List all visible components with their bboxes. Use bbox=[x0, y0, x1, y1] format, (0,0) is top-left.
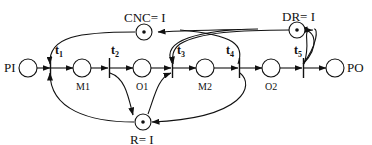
label-o1: O1 bbox=[136, 82, 148, 92]
arc-r-t1 bbox=[50, 73, 134, 122]
label-t5: t5 bbox=[294, 44, 302, 59]
place-m2 bbox=[196, 59, 214, 77]
label-r: R= I bbox=[130, 133, 154, 145]
place-o1 bbox=[133, 59, 151, 77]
arc-t2-r bbox=[110, 73, 133, 115]
label-t3: t3 bbox=[177, 44, 185, 59]
t3-sub: 3 bbox=[181, 50, 185, 59]
petri-net-graphics bbox=[0, 0, 372, 145]
t1-sub: 1 bbox=[59, 50, 63, 59]
place-o2 bbox=[262, 59, 280, 77]
label-t2: t2 bbox=[111, 44, 119, 59]
token-dr bbox=[295, 28, 299, 32]
token-cnc bbox=[142, 30, 146, 34]
label-t4: t4 bbox=[226, 44, 234, 59]
t4-sub: 4 bbox=[230, 50, 234, 59]
place-po bbox=[326, 59, 344, 77]
t2-sub: 2 bbox=[115, 50, 119, 59]
token-r bbox=[141, 120, 145, 124]
label-pi: PI bbox=[4, 61, 16, 74]
label-t1: t1 bbox=[55, 44, 63, 59]
place-pi bbox=[19, 59, 37, 77]
label-m2: M2 bbox=[198, 82, 212, 92]
label-o2: O2 bbox=[265, 82, 277, 92]
label-m1: M1 bbox=[76, 82, 90, 92]
label-po: PO bbox=[347, 61, 364, 74]
label-cnc: CNC= I bbox=[124, 11, 166, 24]
t5-sub: 5 bbox=[298, 50, 302, 59]
label-dr: DR= I bbox=[282, 10, 315, 23]
arc-r-t3 bbox=[148, 73, 171, 114]
arc-t5-dr-path bbox=[304, 30, 313, 64]
petri-net-diagram: PI M1 O1 M2 O2 PO CNC= I DR= I R= I t1 t… bbox=[0, 0, 372, 145]
place-m1 bbox=[73, 59, 91, 77]
